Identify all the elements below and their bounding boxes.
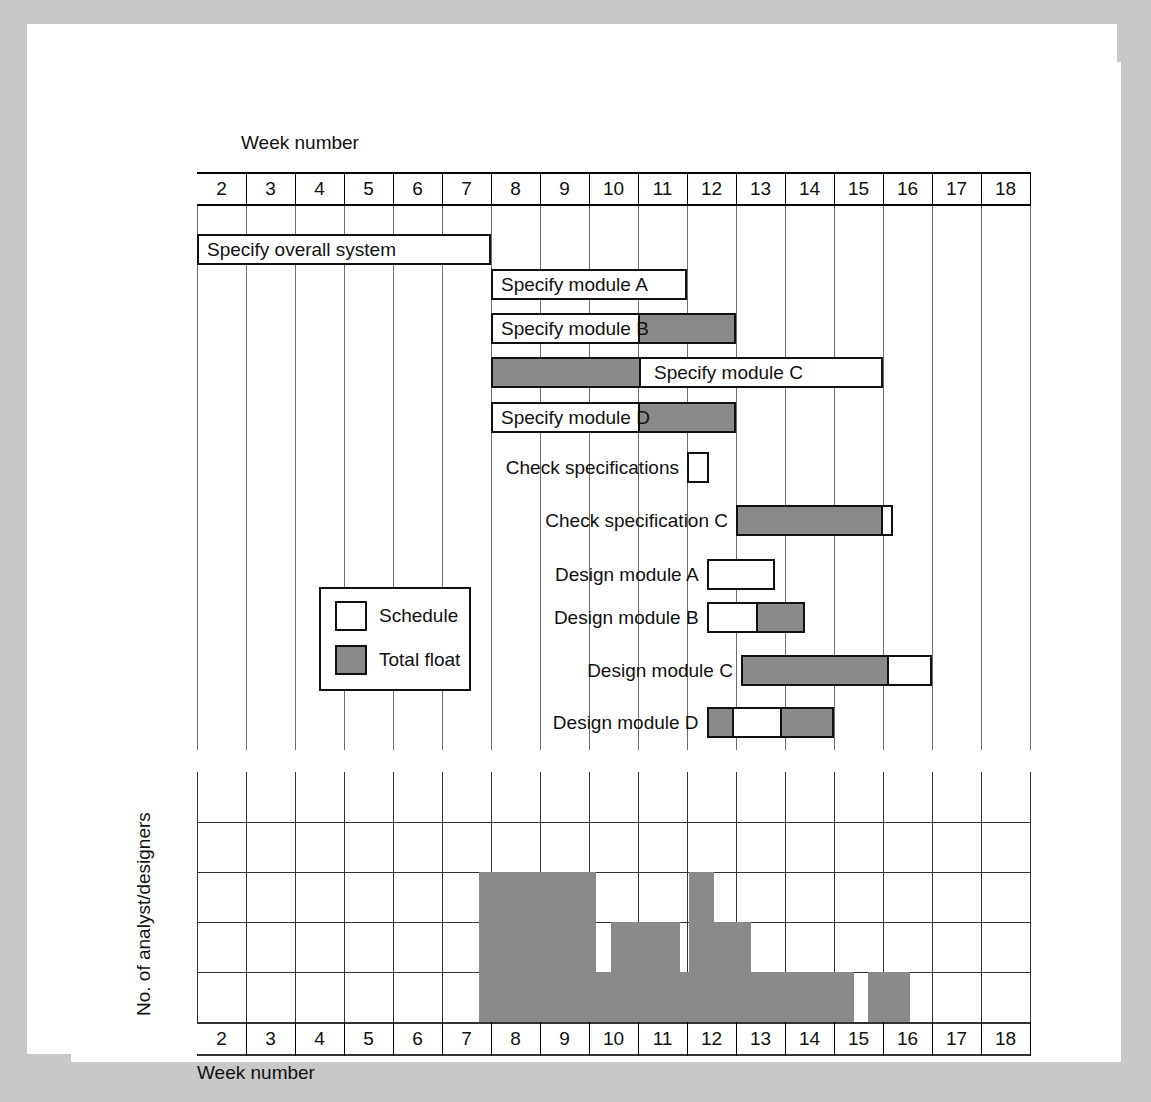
- week-separator-5: [344, 172, 345, 206]
- week-separator-13: [736, 172, 737, 206]
- histogram-week-label-8: 8: [491, 1025, 540, 1053]
- gantt-bar[interactable]: [741, 655, 932, 686]
- histogram-week-separator-9: [540, 1022, 541, 1056]
- histogram-week-label-16: 16: [883, 1025, 932, 1053]
- legend-label-schedule: Schedule: [379, 605, 458, 627]
- histogram-gridline-x-5: [442, 772, 443, 1022]
- gantt-task-label: Specify module D: [501, 404, 650, 431]
- resource-histogram: No. of analyst/designers 234567891011121…: [71, 762, 1121, 1062]
- histogram-week-separator-18: [981, 1022, 982, 1056]
- week-label-3: 3: [246, 174, 295, 204]
- week-separator-end: [1030, 172, 1031, 206]
- week-header-bottom-rule: [197, 204, 1030, 206]
- histogram-week-label-14: 14: [785, 1025, 834, 1053]
- gantt-segment-white: [709, 604, 756, 631]
- legend-item-total-float: Total float: [335, 645, 460, 675]
- week-label-11: 11: [638, 174, 687, 204]
- histogram-week-label-6: 6: [393, 1025, 442, 1053]
- gantt-axis-title: Week number: [241, 132, 359, 154]
- week-separator-18: [981, 172, 982, 206]
- histogram-gridline-x-4: [393, 772, 394, 1022]
- gantt-gridline-15: [932, 206, 933, 750]
- histogram-gridline-x-15: [932, 772, 933, 1022]
- histogram-week-separator-11: [638, 1022, 639, 1056]
- histogram-week-label-15: 15: [834, 1025, 883, 1053]
- gantt-segment-float: [738, 507, 881, 534]
- histogram-step: [680, 972, 690, 1022]
- week-label-9: 9: [540, 174, 589, 204]
- gantt-segment-white: [709, 561, 774, 588]
- histogram-week-label-3: 3: [246, 1025, 295, 1053]
- histogram-gridline-x-3: [344, 772, 345, 1022]
- gantt-task-label: Specify module A: [501, 271, 648, 298]
- histogram-week-separator-3: [246, 1022, 247, 1056]
- gantt-task-label: Design module D: [71, 709, 699, 736]
- gantt-segment-float: [493, 359, 639, 386]
- histogram-step: [714, 922, 751, 1022]
- week-label-5: 5: [344, 174, 393, 204]
- histogram-week-label-17: 17: [932, 1025, 981, 1053]
- histogram-week-label-7: 7: [442, 1025, 491, 1053]
- gantt-segment-float: [709, 709, 733, 736]
- histogram-axis-top-rule: [197, 1022, 1030, 1024]
- histogram-step: [611, 922, 680, 1022]
- histogram-week-separator-8: [491, 1022, 492, 1056]
- gantt-gridline-16: [981, 206, 982, 750]
- histogram-week-label-12: 12: [687, 1025, 736, 1053]
- week-separator-16: [883, 172, 884, 206]
- histogram-week-label-18: 18: [981, 1025, 1030, 1053]
- histogram-week-label-13: 13: [736, 1025, 785, 1053]
- legend-swatch-total-float-icon: [335, 645, 367, 675]
- histogram-step: [596, 972, 611, 1022]
- gantt-task-label: Check specification C: [71, 507, 728, 534]
- week-separator-12: [687, 172, 688, 206]
- gantt-bar[interactable]: [707, 559, 776, 590]
- histogram-gridline-x-2: [295, 772, 296, 1022]
- histogram-week-label-4: 4: [295, 1025, 344, 1053]
- gantt-chart: Week number 23456789101112131415161718 S…: [71, 62, 1121, 762]
- week-separator-14: [785, 172, 786, 206]
- figure-white-frame: Week number 23456789101112131415161718 S…: [27, 24, 1117, 1054]
- histogram-gridline-x-1: [246, 772, 247, 1022]
- week-separator-7: [442, 172, 443, 206]
- gantt-gridline-17: [1030, 206, 1031, 750]
- histogram-week-separator-13: [736, 1022, 737, 1056]
- week-label-6: 6: [393, 174, 442, 204]
- week-label-18: 18: [981, 174, 1030, 204]
- histogram-week-label-11: 11: [638, 1025, 687, 1053]
- week-separator-15: [834, 172, 835, 206]
- histogram-week-separator-10: [589, 1022, 590, 1056]
- histogram-week-separator-15: [834, 1022, 835, 1056]
- week-label-10: 10: [589, 174, 638, 204]
- histogram-step: [479, 872, 597, 1022]
- gantt-gridline-11: [736, 206, 737, 750]
- histogram-gridline-y-3: [197, 872, 1030, 873]
- histogram-step: [689, 872, 714, 1022]
- gantt-task-label: Design module A: [71, 561, 699, 588]
- histogram-week-separator-5: [344, 1022, 345, 1056]
- histogram-week-label-10: 10: [589, 1025, 638, 1053]
- histogram-week-separator-6: [393, 1022, 394, 1056]
- week-label-8: 8: [491, 174, 540, 204]
- gantt-segment-float: [638, 315, 734, 342]
- gantt-segment-white: [732, 709, 779, 736]
- gantt-bar[interactable]: [687, 452, 709, 483]
- gantt-task-label: Check specifications: [71, 454, 679, 481]
- week-label-13: 13: [736, 174, 785, 204]
- gantt-segment-white: [881, 507, 891, 534]
- histogram-week-separator-12: [687, 1022, 688, 1056]
- gantt-task-label: Specify module C: [654, 359, 803, 386]
- histogram-gridline-x-17: [1030, 772, 1031, 1022]
- legend-swatch-schedule-icon: [335, 601, 367, 631]
- histogram-week-label-2: 2: [197, 1025, 246, 1053]
- gantt-bar[interactable]: [707, 602, 805, 633]
- week-separator-11: [638, 172, 639, 206]
- week-label-14: 14: [785, 174, 834, 204]
- gantt-bar[interactable]: [707, 707, 834, 738]
- gantt-bar[interactable]: [736, 505, 893, 536]
- legend-label-total-float: Total float: [379, 649, 460, 671]
- gantt-segment-float: [638, 404, 734, 431]
- histogram-axis-title: Week number: [197, 1062, 315, 1084]
- week-label-4: 4: [295, 174, 344, 204]
- histogram-week-separator-7: [442, 1022, 443, 1056]
